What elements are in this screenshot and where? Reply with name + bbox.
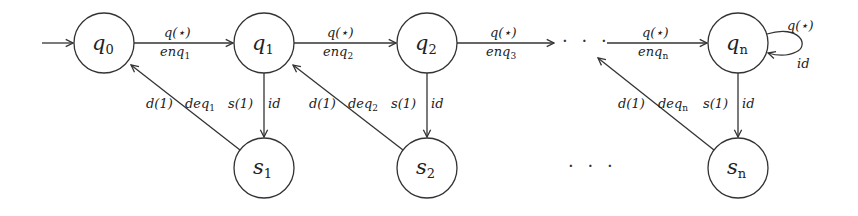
state-qn: qn — [708, 13, 768, 73]
label-q2-dots-bottom: enq3 — [486, 44, 516, 61]
label-q1-q2-top: q(⋆) — [327, 25, 353, 40]
label-q1-s1-right: id — [268, 96, 280, 111]
state-sn: sn — [708, 138, 768, 198]
state-s2: s2 — [397, 138, 457, 198]
label-s1-q0-left: d(1) — [146, 96, 173, 111]
label-q2-dots-top: q(⋆) — [490, 25, 516, 40]
label-q0-q1-bottom: enq1 — [160, 44, 190, 61]
label-qn-sn-right: id — [742, 96, 754, 111]
edge-qn-loop — [767, 31, 802, 55]
label-sn-dots-right: deqn — [658, 96, 688, 113]
state-q1: q1 — [234, 13, 294, 73]
label-q1-q2-bottom: enq2 — [323, 44, 353, 61]
label-sn-dots-left: d(1) — [618, 96, 645, 111]
label-s2-q1-left: d(1) — [309, 96, 336, 111]
state-s1: s1 — [234, 138, 294, 198]
label-q2-s2-left: s(1) — [391, 96, 416, 111]
label-q0-q1-top: q(⋆) — [164, 25, 190, 40]
state-q2: q2 — [397, 13, 457, 73]
label-dots-qn-top: q(⋆) — [642, 25, 668, 40]
label-q2-s2-right: id — [431, 96, 443, 111]
label-q1-s1-left: s(1) — [228, 96, 253, 111]
state-machine-diagram: q0 q1 q2 qn s1 s2 sn · · · · · · q(⋆) en… — [0, 0, 858, 216]
label-qn-sn-left: s(1) — [703, 96, 728, 111]
label-qn-loop-top: q(⋆) — [787, 18, 813, 33]
edge-sn-dots — [598, 58, 714, 150]
label-s1-q0-right: deq1 — [185, 96, 215, 113]
state-q0: q0 — [74, 13, 134, 73]
ellipsis-top: · · · — [562, 30, 611, 51]
label-dots-qn-bottom: enqn — [638, 44, 668, 61]
label-qn-loop-bottom: id — [797, 56, 809, 71]
label-s2-q1-right: deq2 — [348, 96, 378, 113]
ellipsis-bottom: · · · — [568, 155, 617, 176]
